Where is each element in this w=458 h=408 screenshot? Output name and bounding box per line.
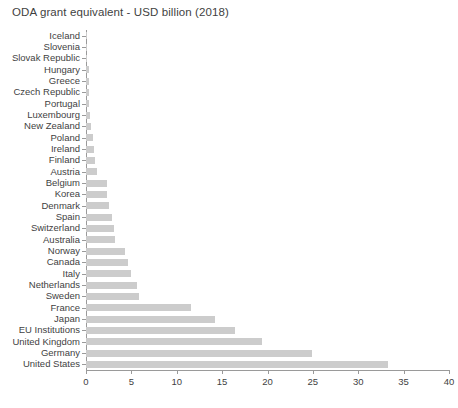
bar — [86, 78, 89, 85]
bar — [86, 146, 94, 153]
category-label: France — [0, 302, 84, 313]
category-label: Denmark — [0, 200, 84, 211]
category-label: Portugal — [0, 98, 84, 109]
bar — [86, 270, 131, 277]
category-label: EU Institutions — [0, 324, 84, 335]
x-axis-tick — [268, 370, 269, 374]
bar — [86, 168, 97, 175]
category-label: Austria — [0, 166, 84, 177]
x-axis-tick-label: 5 — [116, 376, 146, 387]
bar — [86, 225, 114, 232]
bar — [86, 304, 191, 311]
bar — [86, 316, 215, 323]
x-axis-tick — [449, 370, 450, 374]
x-axis-tick — [177, 370, 178, 374]
category-label: Switzerland — [0, 222, 84, 233]
bar — [86, 327, 235, 334]
oda-grant-equivalent-bar-chart: ODA grant equivalent - USD billion (2018… — [0, 0, 458, 408]
category-label: Japan — [0, 313, 84, 324]
bar — [86, 259, 128, 266]
x-axis-tick-label: 35 — [389, 376, 419, 387]
bar — [86, 55, 87, 62]
bar — [86, 112, 90, 119]
bar — [86, 180, 107, 187]
bar — [86, 66, 89, 73]
category-label: Sweden — [0, 290, 84, 301]
bar — [86, 134, 93, 141]
category-label: Australia — [0, 234, 84, 245]
category-label: United Kingdom — [0, 336, 84, 347]
category-label: Belgium — [0, 177, 84, 188]
bar — [86, 32, 87, 39]
bar — [86, 282, 137, 289]
x-axis-tick-label: 20 — [253, 376, 283, 387]
x-axis-tick-label: 0 — [71, 376, 101, 387]
category-label: Poland — [0, 132, 84, 143]
category-label: Czech Republic — [0, 86, 84, 97]
bar — [86, 338, 262, 345]
bar — [86, 157, 95, 164]
category-label: Germany — [0, 347, 84, 358]
x-axis-tick — [86, 370, 87, 374]
category-label: United States — [0, 358, 84, 369]
x-axis-tick — [313, 370, 314, 374]
x-axis-tick-label: 15 — [207, 376, 237, 387]
bar — [86, 361, 388, 368]
category-label: Netherlands — [0, 279, 84, 290]
chart-title: ODA grant equivalent - USD billion (2018… — [12, 6, 229, 18]
x-axis-tick — [358, 370, 359, 374]
bar — [86, 44, 87, 51]
category-label: Luxembourg — [0, 109, 84, 120]
category-label: Spain — [0, 211, 84, 222]
x-axis-tick-label: 40 — [434, 376, 458, 387]
category-label: Iceland — [0, 30, 84, 41]
x-axis-tick-label: 30 — [343, 376, 373, 387]
bar — [86, 100, 89, 107]
category-label: Norway — [0, 245, 84, 256]
category-label: Slovenia — [0, 41, 84, 52]
x-axis-tick-label: 10 — [162, 376, 192, 387]
bar — [86, 89, 89, 96]
x-axis-tick — [222, 370, 223, 374]
bar — [86, 191, 107, 198]
category-label: Korea — [0, 188, 84, 199]
bar — [86, 350, 312, 357]
bar — [86, 123, 91, 130]
x-axis-tick — [131, 370, 132, 374]
x-axis-tick-label: 25 — [298, 376, 328, 387]
category-label: Finland — [0, 154, 84, 165]
x-axis-tick — [404, 370, 405, 374]
bar — [86, 293, 139, 300]
category-label: Greece — [0, 75, 84, 86]
bar — [86, 248, 125, 255]
bar — [86, 202, 109, 209]
category-label: Ireland — [0, 143, 84, 154]
category-label: New Zealand — [0, 120, 84, 131]
category-label: Canada — [0, 256, 84, 267]
bar — [86, 214, 112, 221]
category-label: Hungary — [0, 64, 84, 75]
bar — [86, 236, 115, 243]
category-label: Slovak Republic — [0, 52, 84, 63]
category-label: Italy — [0, 268, 84, 279]
